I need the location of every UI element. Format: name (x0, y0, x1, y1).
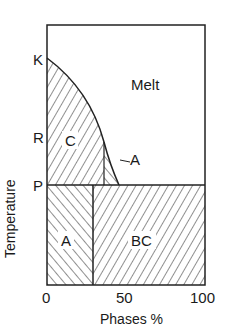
label-c: C (65, 133, 76, 148)
marker-p: P (33, 178, 43, 193)
marker-r: R (33, 130, 44, 145)
x-tick-0: 0 (42, 290, 50, 305)
x-tick-50: 50 (116, 290, 133, 305)
y-axis-label: Temperature (2, 179, 18, 258)
label-melt: Melt (131, 77, 159, 92)
x-tick-100: 100 (190, 290, 215, 305)
label-a-upper: A (130, 152, 140, 167)
x-axis-label: Phases % (100, 312, 163, 326)
region-c (47, 58, 104, 185)
a-leader-line (120, 160, 130, 162)
marker-k: K (33, 52, 43, 67)
label-a-lower: A (61, 233, 71, 248)
label-bc: BC (131, 233, 152, 248)
